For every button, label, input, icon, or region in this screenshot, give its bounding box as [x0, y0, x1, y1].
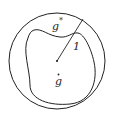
outer-region-superscript: * [59, 16, 63, 25]
outer-region-label: g [52, 20, 59, 33]
radius-label: 1 [73, 40, 80, 53]
inner-region-label: g [55, 75, 62, 88]
inner-blob [26, 30, 95, 105]
center-point [56, 60, 58, 62]
diagram-canvas: g * 1 g [0, 0, 113, 121]
inner-region-dot-accent [58, 74, 60, 76]
